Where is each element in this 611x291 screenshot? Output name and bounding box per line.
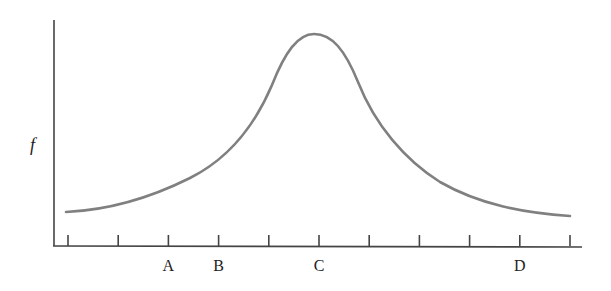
y-axis-label: f (30, 135, 38, 155)
x-tick-label-b: B (213, 257, 224, 274)
x-tick-labels: ABCD (163, 257, 526, 274)
x-tick-label-d: D (514, 257, 526, 274)
x-tick-label-c: C (314, 257, 325, 274)
chart: ABCD f (0, 0, 611, 291)
curve-f (66, 34, 570, 216)
x-axis (53, 246, 582, 247)
x-ticks (68, 235, 570, 246)
x-tick-label-a: A (163, 257, 175, 274)
